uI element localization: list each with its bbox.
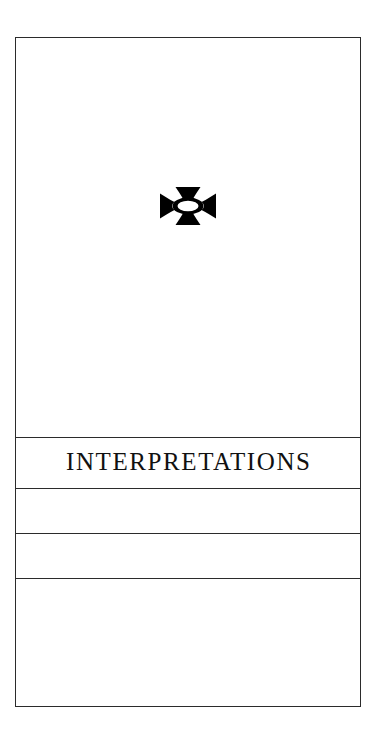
ornament-cell — [16, 38, 360, 437]
blank-row-2 — [16, 533, 360, 578]
maltese-cross-ornament — [160, 187, 216, 225]
bordered-table-frame: INTERPRETATIONS — [15, 37, 361, 707]
page-canvas: INTERPRETATIONS — [0, 0, 381, 752]
blank-row-3 — [16, 578, 360, 706]
blank-row-1 — [16, 488, 360, 533]
page-title: INTERPRETATIONS — [64, 449, 311, 474]
section-heading-band: INTERPRETATIONS — [16, 437, 360, 488]
